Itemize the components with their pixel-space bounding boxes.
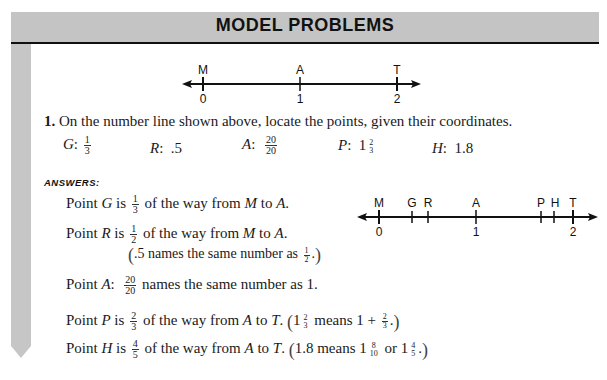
point-label-t: T (569, 197, 576, 209)
point-label-h: H (551, 197, 560, 209)
point-label-r: R (424, 197, 433, 209)
point-label-g: G (407, 197, 416, 209)
number-line-answer-graphic (0, 0, 607, 380)
point-label-p: P (537, 197, 545, 209)
point-label-m: M (374, 197, 384, 209)
point-label-a: A (472, 197, 480, 209)
number-line-answer: M G R A P H T 0 1 2 (0, 0, 607, 380)
coord-label-0: 0 (376, 226, 383, 238)
coord-label-1: 1 (473, 226, 480, 238)
coord-label-2: 2 (570, 226, 577, 238)
